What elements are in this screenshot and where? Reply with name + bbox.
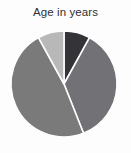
pie-slice-group [11,31,117,137]
pie-svg [0,0,131,153]
pie-plot-area [0,0,131,153]
pie-chart-figure: Age in years [0,0,131,153]
